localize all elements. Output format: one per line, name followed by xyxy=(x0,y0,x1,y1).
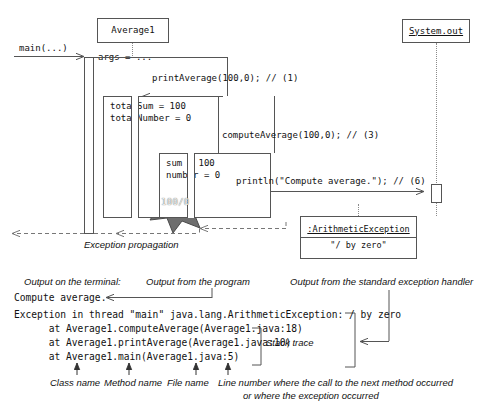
caption-output-from-program: Output from the program xyxy=(146,276,250,288)
activation-main xyxy=(84,57,94,234)
lifeline-system-out xyxy=(436,43,437,183)
object-box-arithmetic-exception: :ArithmeticException "/ by zero" xyxy=(300,216,417,259)
activation-system-out xyxy=(431,184,442,203)
legend-class-name: Class name xyxy=(50,377,100,389)
legend-line-number-2: or where the exception occurred xyxy=(243,390,379,402)
print-average-return-riser xyxy=(274,96,275,153)
object-box-average1: Average1 xyxy=(97,18,169,43)
terminal-line-3: at Average1.printAverage(Average1.java:1… xyxy=(14,336,291,349)
caption-output-from-handler: Output from the standard exception handl… xyxy=(290,276,473,288)
legend-line-number-1: Line number where the call to the next m… xyxy=(218,377,453,389)
caption-stack-trace: Stack trace xyxy=(266,337,314,349)
activation-print-average-label-2: totalNumber = 0 xyxy=(110,112,191,124)
main-frame-top xyxy=(84,57,227,58)
legend-method-name: Method name xyxy=(104,377,162,389)
lifeline-system-out-lower xyxy=(436,202,437,216)
terminal-line-0: Compute average. xyxy=(14,291,106,304)
object-box-system-out: System.out xyxy=(402,19,470,43)
message-label-println: println("Compute average."); // (6) xyxy=(236,176,426,187)
lifeline-arithmetic-exception xyxy=(358,204,359,216)
object-box-system-out-label: System.out xyxy=(403,24,469,39)
message-label-compute-average: computeAverage(100,0); // (3) xyxy=(222,130,379,141)
terminal-line-4: at Average1.main(Average1.java:5) xyxy=(14,350,239,363)
annotation-pointer-program-output xyxy=(106,288,212,298)
object-box-average1-label: Average1 xyxy=(98,23,168,38)
caption-output-on-terminal: Output on the terminal: xyxy=(24,276,121,288)
annotation-bracket-handler-output xyxy=(345,290,389,367)
legend-file-name: File name xyxy=(167,377,209,389)
terminal-line-2: at Average1.computeAverage(Average1.java… xyxy=(14,322,303,335)
activation-print-average-spine xyxy=(131,96,139,218)
exception-starburst: 100/0 xyxy=(148,173,210,233)
legend-pointer-arrows xyxy=(77,363,228,375)
caption-exception-propagation: Exception propagation xyxy=(84,239,179,251)
sequence-diagram-figure: Average1 System.out :ArithmeticException… xyxy=(0,0,486,409)
terminal-line-1: Exception in thread "main" java.lang.Ari… xyxy=(14,308,401,321)
object-box-arithmetic-exception-label: :ArithmeticException xyxy=(301,222,416,237)
exception-starburst-label: 100/0 xyxy=(161,197,190,207)
activation-print-average-label-1: totalSum = 100 xyxy=(110,100,186,112)
message-label-print-average: printAverage(100,0); // (1) xyxy=(152,73,298,84)
object-box-arithmetic-exception-attribute: "/ by zero" xyxy=(301,237,416,253)
message-label-main: main(...) xyxy=(19,43,68,54)
